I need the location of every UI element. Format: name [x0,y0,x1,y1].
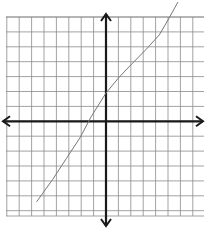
axes [3,14,203,226]
coordinate-plane [0,0,205,231]
